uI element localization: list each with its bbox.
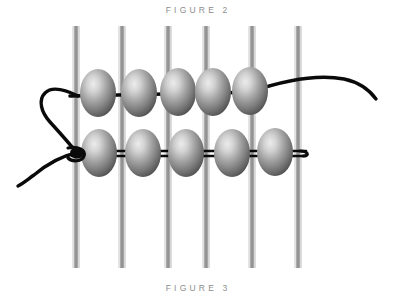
- figure-illustration: [0, 0, 393, 298]
- bead-lower-5: [257, 128, 293, 176]
- rod-2: [119, 26, 126, 268]
- rod-5: [249, 26, 256, 268]
- upper-wire-left-curl: [41, 89, 78, 152]
- rod-4: [203, 26, 210, 268]
- bead-lower-2: [125, 129, 161, 177]
- rod-6: [295, 26, 302, 268]
- bead-upper-5: [232, 67, 268, 115]
- bead-upper-2: [121, 69, 157, 117]
- bead-lower-3: [168, 129, 204, 177]
- bead-upper-1: [80, 69, 116, 117]
- bead-lower-1: [81, 129, 117, 177]
- bead-upper-3: [160, 68, 196, 116]
- figure-page: FIGURE 2: [0, 0, 393, 298]
- upper-wire-right-tail: [250, 77, 376, 99]
- figure-caption-bottom: FIGURE 3: [0, 283, 393, 293]
- bead-upper-4: [195, 68, 231, 116]
- bead-lower-4: [214, 129, 250, 177]
